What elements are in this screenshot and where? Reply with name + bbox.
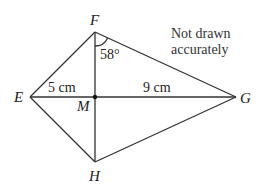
side-GH — [95, 97, 236, 162]
label-E: E — [13, 89, 23, 105]
length-MG: 9 cm — [143, 80, 171, 95]
angle-arc-F — [95, 38, 108, 46]
label-H: H — [88, 168, 101, 184]
label-M: M — [76, 98, 91, 114]
note-line-2: accurately — [171, 42, 229, 57]
point-M — [93, 95, 97, 99]
label-F: F — [89, 12, 100, 28]
note-line-1: Not drawn — [171, 26, 231, 41]
angle-label: 58° — [100, 47, 120, 62]
label-G: G — [240, 90, 251, 106]
length-EM: 5 cm — [48, 80, 76, 95]
kite-diagram: F E M G H 58° 5 cm 9 cm Not drawn accura… — [0, 0, 265, 193]
